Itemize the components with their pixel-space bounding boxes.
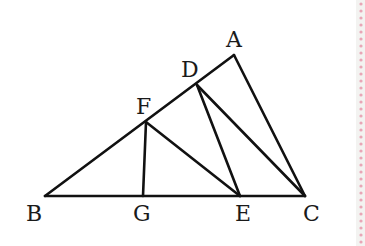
segment-DC bbox=[197, 85, 305, 196]
label-B: B bbox=[26, 201, 42, 226]
segment-AC bbox=[234, 55, 305, 196]
dotted-margin-line bbox=[359, 2, 362, 243]
label-A: A bbox=[225, 27, 243, 52]
label-C: C bbox=[303, 201, 320, 226]
segment-BA bbox=[45, 55, 234, 196]
label-D: D bbox=[181, 57, 199, 82]
segment-FG bbox=[143, 122, 146, 196]
label-E: E bbox=[235, 201, 251, 226]
geometry-diagram: A D F B G E C bbox=[0, 0, 365, 246]
label-G: G bbox=[133, 201, 151, 226]
label-F: F bbox=[136, 94, 151, 119]
